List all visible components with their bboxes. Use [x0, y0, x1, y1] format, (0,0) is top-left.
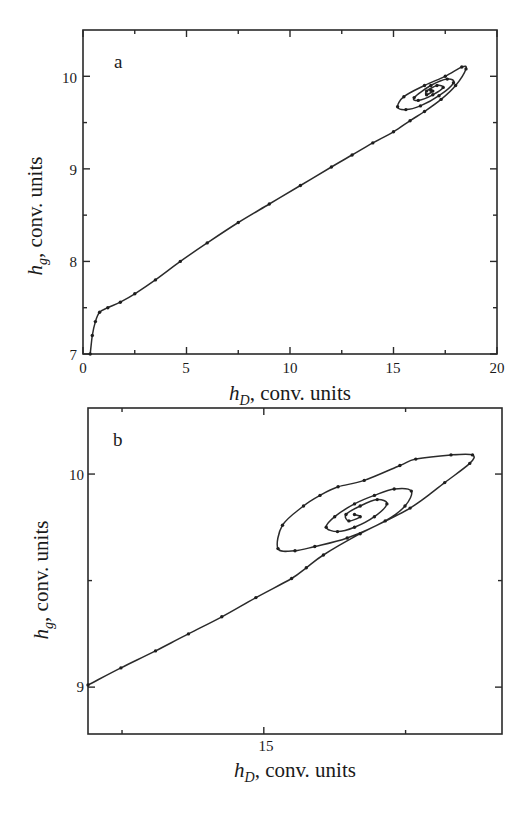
data-point — [325, 526, 328, 529]
data-point — [94, 320, 97, 323]
data-point — [119, 301, 122, 304]
x-axis-label-b: hD, conv. units — [234, 758, 356, 785]
data-point — [398, 464, 401, 467]
data-point — [446, 77, 449, 80]
figure: a 0 5 10 15 20 7 8 9 10 hD, conv. units … — [0, 0, 528, 815]
data-point — [133, 292, 136, 295]
data-point — [471, 453, 474, 456]
x-tick-label-15: 15 — [386, 360, 401, 376]
data-point — [408, 119, 411, 122]
data-point — [404, 108, 407, 111]
data-point — [281, 524, 284, 527]
data-point — [363, 479, 366, 482]
data-point — [413, 96, 416, 99]
data-point — [431, 93, 434, 96]
y-tick-label-10: 10 — [62, 70, 77, 86]
data-point — [423, 84, 426, 87]
data-point — [318, 494, 321, 497]
data-point — [371, 141, 374, 144]
data-point — [423, 110, 426, 113]
data-point — [268, 202, 271, 205]
data-point — [373, 515, 376, 518]
data-point — [237, 221, 240, 224]
data-point — [179, 260, 182, 263]
plot-frame-b — [88, 408, 502, 734]
y-tick-label-9: 9 — [77, 679, 85, 695]
data-point — [452, 81, 455, 84]
data-point — [435, 84, 438, 87]
data-point — [154, 278, 157, 281]
data-point — [454, 84, 457, 87]
data-point — [373, 494, 376, 497]
data-point — [322, 553, 325, 556]
data-point — [89, 352, 92, 355]
data-point — [417, 99, 420, 102]
data-point — [353, 513, 356, 516]
y-axis-label-a: hg, conv. units — [23, 157, 50, 276]
data-point — [293, 549, 296, 552]
data-point — [333, 515, 336, 518]
data-point — [425, 89, 428, 92]
data-point — [443, 481, 446, 484]
panel-a: a 0 5 10 15 20 7 8 9 10 hD, conv. units … — [23, 30, 505, 408]
data-point — [444, 75, 447, 78]
data-point — [330, 165, 333, 168]
data-point — [460, 65, 463, 68]
data-point — [468, 462, 471, 465]
data-point — [86, 683, 89, 686]
data-point — [385, 502, 388, 505]
x-tick-label-5: 5 — [182, 360, 190, 376]
data-point — [464, 67, 467, 70]
data-point — [154, 649, 157, 652]
data-point — [350, 153, 353, 156]
data-point — [220, 615, 223, 618]
data-point — [414, 457, 417, 460]
data-point — [353, 502, 356, 505]
data-point — [290, 577, 293, 580]
y-axis-label-b: hg, conv. units — [29, 521, 56, 640]
data-point — [442, 86, 445, 89]
data-point — [336, 485, 339, 488]
data-point — [119, 666, 122, 669]
data-point — [276, 547, 279, 550]
data-point — [439, 98, 442, 101]
data-point — [91, 334, 94, 337]
data-point — [344, 513, 347, 516]
data-point — [392, 130, 395, 133]
data-point — [336, 530, 339, 533]
data-point — [254, 596, 257, 599]
data-point — [410, 489, 413, 492]
data-point — [305, 566, 308, 569]
x-tick-label-15: 15 — [259, 738, 274, 754]
data-point — [425, 93, 428, 96]
trajectory-curve-b — [86, 453, 474, 687]
data-point — [346, 536, 349, 539]
y-tick-label-8: 8 — [70, 254, 78, 270]
data-point — [384, 519, 387, 522]
data-point — [437, 94, 440, 97]
data-point — [402, 95, 405, 98]
data-point — [359, 515, 362, 518]
data-point — [396, 105, 399, 108]
data-point — [408, 506, 411, 509]
data-point — [206, 241, 209, 244]
data-point — [353, 526, 356, 529]
data-point — [106, 306, 109, 309]
y-tick-label-10: 10 — [69, 467, 84, 483]
x-tick-label-0: 0 — [79, 360, 87, 376]
data-point — [403, 504, 406, 507]
data-point — [376, 498, 379, 501]
trajectory-line — [90, 66, 466, 354]
panel-letter-a: a — [114, 51, 123, 72]
x-tick-label-20: 20 — [490, 360, 505, 376]
y-tick-label-9: 9 — [70, 162, 78, 178]
data-point — [359, 532, 362, 535]
axis-ticks-b — [88, 408, 502, 734]
data-point — [347, 519, 350, 522]
panel-b: b 15 9 10 hD, conv. units hg, conv. unit… — [29, 408, 502, 785]
data-point — [302, 504, 305, 507]
data-point — [359, 504, 362, 507]
data-point — [313, 545, 316, 548]
data-point — [449, 453, 452, 456]
y-tick-label-7: 7 — [70, 347, 78, 363]
